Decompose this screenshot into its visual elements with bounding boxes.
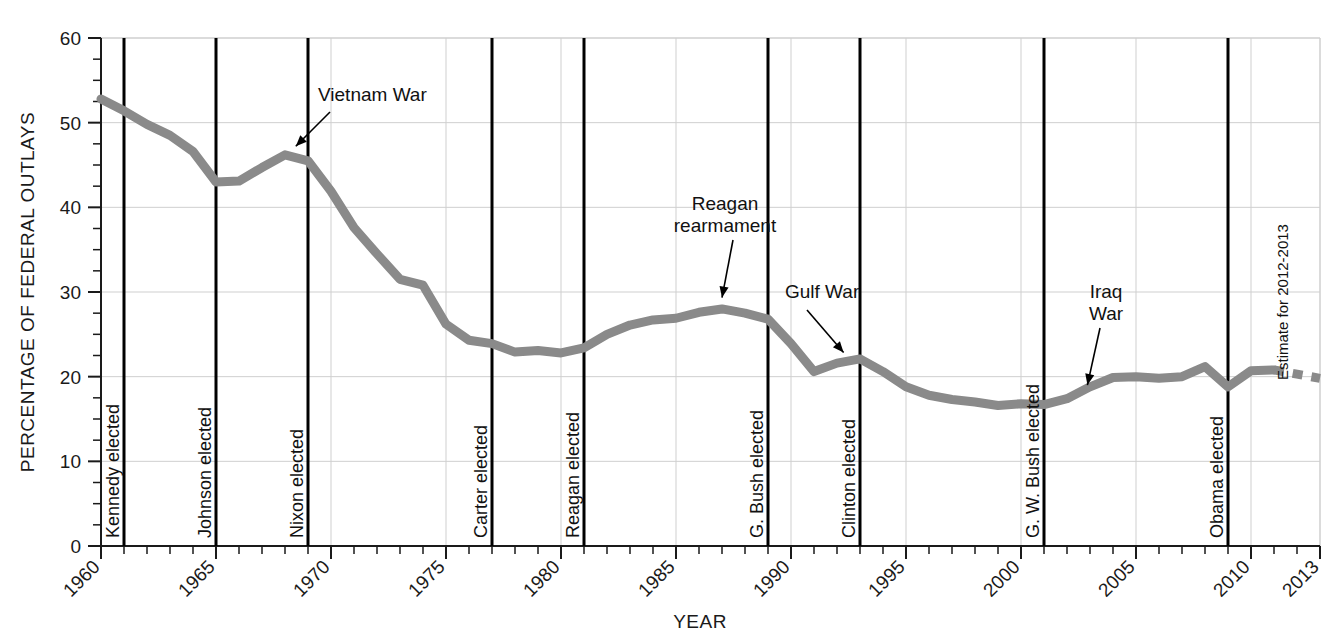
y-tick-label: 0 (70, 536, 81, 557)
election-marker-label: Reagan elected (563, 412, 583, 538)
y-tick-label: 60 (60, 28, 81, 49)
election-marker-label: Kennedy elected (103, 404, 123, 538)
chart-figure: Kennedy electedJohnson electedNixon elec… (0, 0, 1344, 643)
election-marker-label: Nixon elected (287, 429, 307, 538)
y-tick-label: 10 (60, 451, 81, 472)
annotation-line: Reagan (692, 193, 759, 214)
election-marker-label: Obama elected (1207, 416, 1227, 538)
y-axis-title: PERCENTAGE OF FEDERAL OUTLAYS (17, 112, 38, 472)
y-tick-label: 30 (60, 282, 81, 303)
election-marker-label: Carter elected (471, 425, 491, 538)
annotation-line: War (1089, 303, 1124, 324)
x-axis-title: YEAR (673, 611, 727, 632)
y-tick-label: 20 (60, 367, 81, 388)
election-marker-label: G. Bush elected (747, 410, 767, 538)
election-marker-label: Johnson elected (195, 407, 215, 538)
annotation-line: Gulf War (785, 281, 860, 302)
election-marker-label: Clinton elected (839, 419, 859, 538)
defense-outlays-line-chart: Kennedy electedJohnson electedNixon elec… (0, 0, 1344, 643)
annotation-iraq-war: IraqWar (1089, 281, 1124, 324)
annotation-line: Vietnam War (318, 84, 427, 105)
annotation-estimate-2012-2013: Estimate for 2012-2013 (1274, 224, 1291, 380)
annotation-line: Iraq (1090, 281, 1123, 302)
annotation-vietnam-war: Vietnam War (318, 84, 427, 105)
annotation-gulf-war: Gulf War (785, 281, 860, 302)
election-marker-label: G. W. Bush elected (1023, 384, 1043, 538)
y-tick-label: 40 (60, 197, 81, 218)
annotation-line: rearmament (674, 215, 777, 236)
y-tick-label: 50 (60, 113, 81, 134)
